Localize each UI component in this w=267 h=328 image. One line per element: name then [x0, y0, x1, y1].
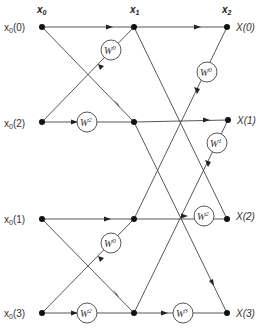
arrow-icon — [106, 25, 113, 30]
arrow-icon — [181, 214, 188, 219]
arrow-icon — [209, 279, 214, 286]
stage-header-1: x1 — [129, 4, 140, 16]
twiddle-w0-stage2: W0 — [197, 62, 217, 82]
arrow-icon — [113, 290, 119, 298]
twiddle-w3-stage2: W3 — [173, 303, 193, 323]
node — [224, 310, 230, 316]
input-label-3: x0(3) — [4, 308, 25, 320]
arrow-icon — [104, 217, 111, 222]
twiddle-w0-stage1-bottom: W0 — [101, 233, 121, 253]
output-label-0: X(0) — [235, 22, 255, 33]
arrow-icon — [98, 64, 104, 70]
fft-butterfly-diagram: x0 x1 x2 x0(0) x0(2) x0(1) x0(3) X(0) X(… — [0, 0, 267, 328]
node — [39, 310, 45, 316]
output-label-2: X(2) — [235, 211, 255, 222]
stage-header-2: x2 — [221, 4, 232, 16]
node — [131, 310, 137, 316]
twiddle-w0-stage1-top: W0 — [101, 40, 121, 60]
twiddle-w2-stage2: W2 — [194, 206, 214, 226]
node — [224, 24, 230, 30]
twiddle-w1-stage2: W1 — [207, 133, 227, 153]
arrow-icon — [161, 311, 168, 316]
arrow-icon — [194, 25, 201, 30]
arrowheads — [71, 25, 214, 316]
twiddle-w2-stage1-bottom: W2 — [77, 303, 97, 323]
input-label-1: x0(2) — [4, 118, 25, 130]
node — [39, 119, 45, 125]
node — [131, 119, 137, 125]
input-label-2: x0(1) — [4, 214, 25, 226]
arrow-icon — [98, 256, 104, 262]
twiddle-w2-stage1-top: W2 — [77, 112, 97, 132]
output-label-1: X(1) — [236, 115, 256, 126]
node — [131, 216, 137, 222]
input-label-0: x0(0) — [4, 22, 25, 34]
node — [225, 117, 231, 123]
stage-header-0: x0 — [36, 4, 47, 16]
arrow-icon — [203, 118, 210, 123]
node — [39, 24, 45, 30]
node — [39, 216, 45, 222]
node — [224, 216, 230, 222]
node — [131, 24, 137, 30]
output-label-3: X(3) — [235, 308, 255, 319]
